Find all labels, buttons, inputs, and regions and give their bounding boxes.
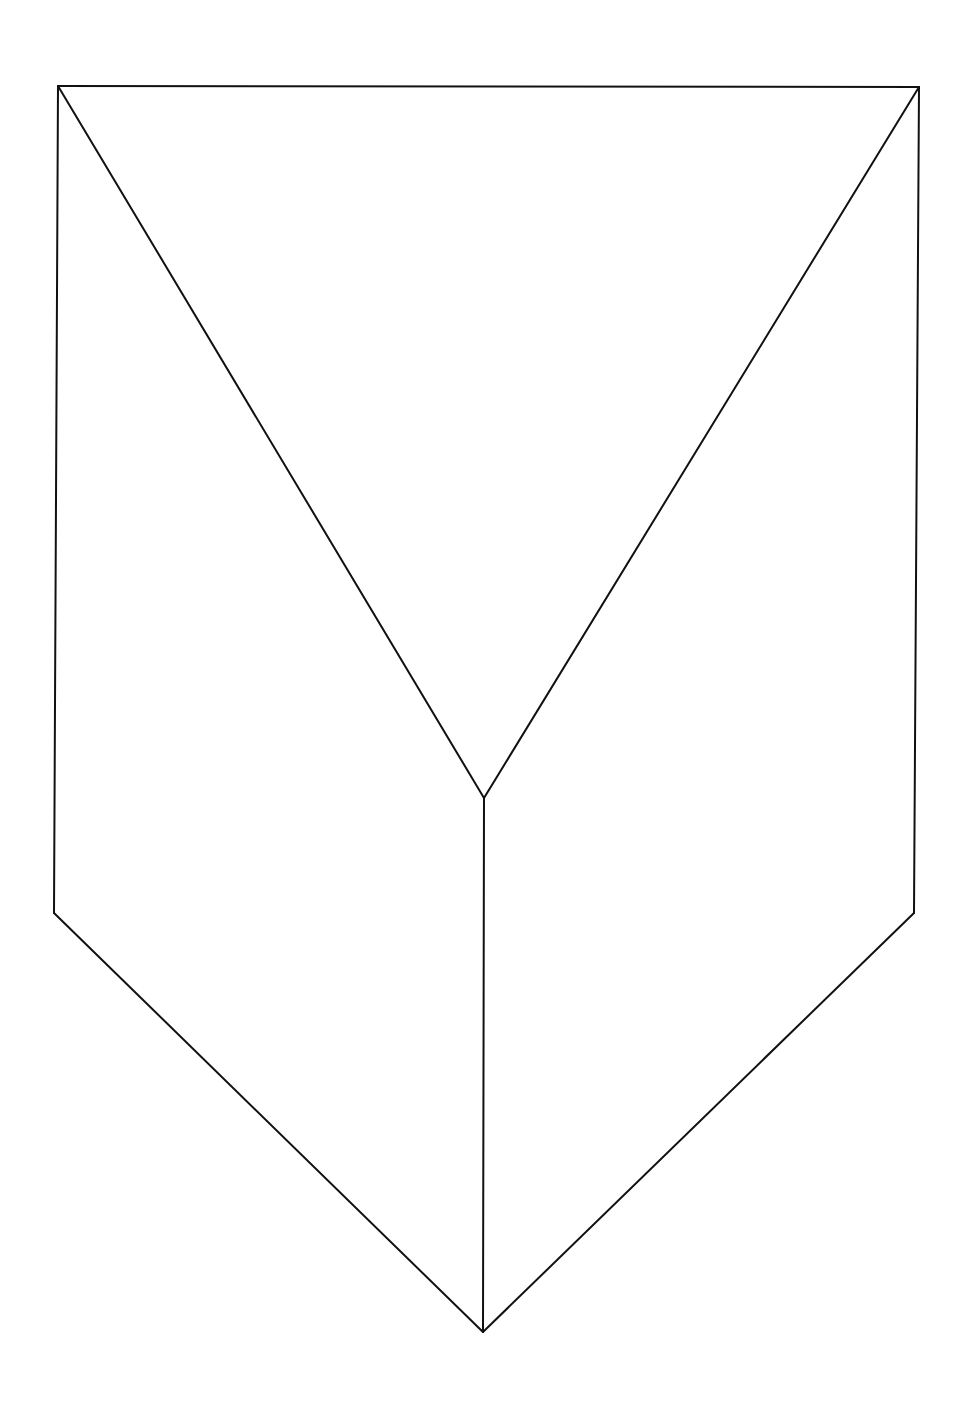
outline-shape	[54, 86, 919, 1332]
diagram-canvas	[0, 0, 966, 1406]
bottom-right-edge	[483, 913, 914, 1332]
top-edge	[58, 86, 919, 87]
right-side-edge	[914, 87, 919, 913]
left-side-edge	[54, 86, 58, 913]
left-diagonal-edge	[58, 86, 484, 798]
right-diagonal-edge	[484, 87, 919, 798]
bottom-left-edge	[54, 913, 483, 1332]
center-vertical-edge	[483, 798, 484, 1332]
